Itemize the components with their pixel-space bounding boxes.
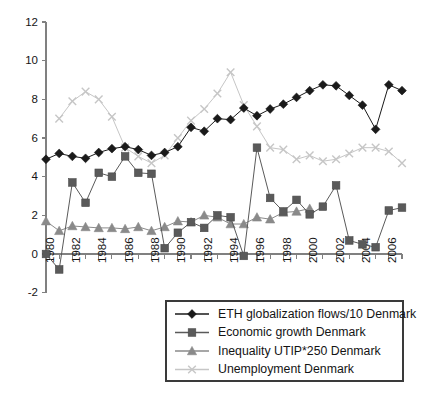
y-axis-tick-label: 8 (32, 93, 38, 105)
data-point-diamond (384, 80, 393, 89)
data-point-diamond (147, 151, 156, 160)
data-point-cross (148, 159, 156, 167)
data-point-cross (200, 105, 208, 113)
data-point-cross (345, 150, 353, 158)
y-axis-tick-label: -2 (28, 286, 38, 298)
legend-label-1: ETH globalization flows/10 Denmark (218, 307, 417, 321)
data-point-square (306, 211, 314, 219)
data-point-square (266, 194, 274, 202)
data-point-square (200, 224, 208, 232)
data-point-cross (82, 88, 90, 96)
data-point-cross (214, 90, 222, 98)
data-point-diamond (108, 144, 117, 153)
chart-figure: -202468101219801982198419861988199019921… (0, 0, 426, 397)
legend-label-2: Economic growth Denmark (218, 325, 366, 339)
data-point-square (82, 199, 90, 207)
line-chart: -202468101219801982198419861988199019921… (0, 0, 426, 397)
data-point-square (214, 212, 222, 220)
data-point-diamond (292, 93, 301, 102)
data-point-diamond (345, 91, 354, 100)
data-point-cross (227, 68, 235, 76)
data-point-triangle (200, 211, 209, 219)
y-axis-tick-label: 0 (32, 248, 38, 260)
data-point-cross (306, 152, 314, 160)
data-point-square (319, 203, 327, 211)
data-point-diamond (55, 149, 64, 158)
y-axis-tick-label: 6 (32, 132, 38, 144)
data-point-square (345, 237, 353, 245)
data-point-square (148, 170, 156, 178)
legend-label-4: Unemployment Denmark (218, 362, 355, 376)
data-point-diamond (253, 111, 262, 120)
x-axis-tick-label: 1988 (149, 237, 161, 263)
data-point-square (293, 196, 301, 204)
data-point-diamond (358, 101, 367, 110)
x-axis-tick-label: 1996 (254, 237, 266, 263)
data-point-diamond (371, 125, 380, 134)
data-point-diamond (332, 81, 341, 90)
data-point-triangle (252, 213, 261, 221)
data-point-square (174, 229, 182, 237)
data-point-square (95, 169, 103, 177)
y-axis-tick-label: 12 (25, 16, 38, 28)
data-point-triangle (41, 217, 50, 225)
data-point-square (134, 169, 142, 177)
data-point-square (240, 252, 248, 260)
x-axis-tick-label: 2006 (386, 237, 398, 263)
data-point-diamond (266, 105, 275, 114)
x-axis-tick-label: 1990 (175, 237, 187, 263)
y-axis-tick-label: 2 (32, 209, 38, 221)
legend-label-3: Inequality UTIP*250 Denmark (218, 344, 382, 358)
data-point-square (161, 244, 169, 252)
x-axis-tick-label: 2000 (307, 237, 319, 263)
data-point-diamond (318, 80, 327, 89)
data-point-square (121, 153, 129, 161)
data-point-square (280, 208, 288, 216)
data-point-diamond (94, 148, 103, 157)
data-point-triangle (173, 217, 182, 225)
data-point-diamond (398, 86, 407, 95)
data-point-triangle (68, 221, 77, 229)
x-axis-tick-label: 2002 (334, 237, 346, 263)
x-axis-tick-label: 1998 (281, 237, 293, 263)
data-point-cross (398, 159, 406, 167)
data-point-cross (253, 123, 261, 131)
data-point-cross (95, 96, 103, 104)
data-point-triangle (55, 226, 64, 234)
y-axis-tick-label: 10 (25, 54, 38, 66)
data-point-square (253, 144, 261, 152)
data-point-square (398, 204, 406, 212)
data-point-diamond (279, 100, 288, 109)
chart-legend: ETH globalization flows/10 DenmarkEconom… (166, 301, 417, 381)
x-axis-tick-label: 1986 (123, 237, 135, 263)
data-point-triangle (147, 226, 156, 234)
data-point-square (359, 241, 367, 249)
data-point-square (332, 182, 340, 190)
data-point-square (69, 179, 77, 187)
data-point-square (372, 243, 380, 251)
data-point-square (227, 213, 235, 221)
data-point-cross (293, 155, 301, 163)
data-point-diamond (173, 142, 182, 151)
data-point-cross (108, 113, 116, 121)
x-axis-tick-label: 1992 (202, 237, 214, 263)
data-point-cross (55, 115, 63, 123)
data-point-square (385, 207, 393, 215)
x-axis-tick-label: 1982 (70, 237, 82, 263)
data-point-square (187, 218, 195, 226)
x-axis-tick-label: 1984 (96, 237, 108, 263)
data-point-square (108, 173, 116, 181)
data-point-square (42, 250, 50, 258)
data-point-cross (385, 148, 393, 156)
data-point-triangle (134, 222, 143, 230)
data-point-cross (69, 97, 77, 105)
y-axis-tick-label: 4 (32, 170, 39, 182)
data-point-diamond (42, 155, 51, 164)
data-point-diamond (305, 86, 314, 95)
data-point-square (55, 266, 63, 274)
data-point-diamond (68, 152, 77, 161)
data-point-square (188, 329, 196, 337)
data-point-cross (174, 134, 182, 142)
data-point-diamond (160, 148, 169, 157)
data-point-diamond (81, 154, 90, 163)
